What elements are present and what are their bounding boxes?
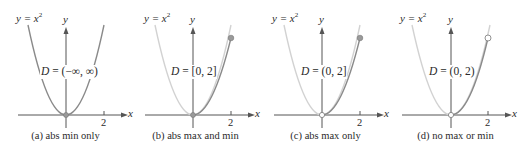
- y-axis-label: y: [448, 14, 453, 25]
- min-point: [191, 113, 196, 118]
- panel-abs-min-only: y = x2 y x 2 D = (−∞, ∞) (a) abs min onl…: [0, 0, 131, 148]
- domain-label: D = (−∞, ∞): [40, 65, 99, 79]
- domain-label: D = (0, 2]: [300, 65, 347, 79]
- tick-label: 2: [485, 118, 490, 129]
- y-axis-label: y: [319, 14, 324, 25]
- x-axis-arrow-icon: [505, 113, 512, 118]
- max-point: [357, 35, 363, 41]
- panel-abs-max-and-min: y = x2 y x 2 D = [0, 2] (b) abs max and …: [130, 0, 261, 148]
- equation-label: y = x2: [16, 12, 42, 24]
- domain-label: D = (0, 2): [428, 65, 475, 79]
- x-axis-label: x: [384, 108, 389, 119]
- caption: (d) no max or min: [390, 131, 521, 142]
- open-endpoint-right: [485, 35, 491, 41]
- open-endpoint-left: [448, 112, 453, 117]
- caption: (c) abs max only: [260, 131, 391, 142]
- y-axis-arrow-icon: [64, 27, 69, 34]
- caption: (b) abs max and min: [130, 131, 261, 142]
- caption: (a) abs min only: [0, 131, 131, 142]
- y-axis-label: y: [190, 14, 195, 25]
- y-axis-arrow-icon: [449, 27, 454, 34]
- y-axis-arrow-icon: [191, 27, 196, 34]
- x-axis-arrow-icon: [121, 113, 128, 118]
- equation-label: y = x2: [144, 12, 170, 24]
- x-axis-label: x: [512, 108, 517, 119]
- y-axis-arrow-icon: [320, 27, 325, 34]
- tick-label: 2: [101, 118, 106, 129]
- open-endpoint: [319, 112, 324, 117]
- x-axis-arrow-icon: [377, 113, 384, 118]
- x-axis-arrow-icon: [248, 113, 255, 118]
- max-point: [228, 35, 234, 41]
- equation-label: y = x2: [400, 12, 426, 24]
- min-point: [64, 113, 69, 118]
- y-axis-label: y: [63, 14, 68, 25]
- equation-label: y = x2: [272, 12, 298, 24]
- panel-abs-max-only: y = x2 y x 2 D = (0, 2] (c) abs max only: [260, 0, 391, 148]
- panel-no-max-or-min: y = x2 y x 2 D = (0, 2) (d) no max or mi…: [390, 0, 521, 148]
- tick-label: 2: [357, 118, 362, 129]
- domain-label: D = [0, 2]: [170, 65, 217, 79]
- tick-label: 2: [228, 118, 233, 129]
